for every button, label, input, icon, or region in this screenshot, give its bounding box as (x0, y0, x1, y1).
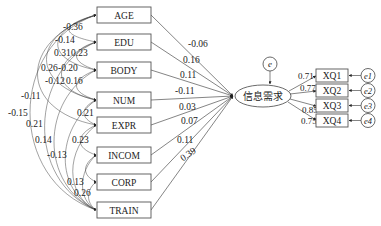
corr-label: -0.12 (45, 76, 65, 86)
predictor-num: NUM (97, 92, 151, 108)
predictor-expr: EXPR (97, 117, 151, 133)
predictor-label: INCOM (108, 151, 140, 161)
corr-label: 0.21 (26, 119, 43, 129)
predictor-age: AGE (97, 7, 151, 23)
coef-label: 0.11 (177, 135, 194, 145)
corr-label: -0.11 (21, 91, 41, 101)
predictor-boxes: AGE EDU BODY NUM EXPR INCOM CORP TRAIN (97, 7, 151, 218)
predictor-body: BODY (97, 62, 151, 78)
latent-label: 信息需求 (243, 90, 283, 102)
predictor-train: TRAIN (97, 202, 151, 218)
corr-label: -0.20 (58, 63, 78, 73)
coef-label: 0.07 (181, 116, 198, 126)
indicator-xq1: XQ1 (316, 69, 348, 82)
indicator-label: XQ3 (323, 101, 342, 111)
corr-label: 0.26 (74, 188, 91, 198)
coef-label: -0.06 (188, 39, 208, 49)
predictor-label: TRAIN (109, 206, 138, 216)
coef-label: 0.11 (180, 70, 197, 80)
corr-label: 0.16 (66, 76, 83, 86)
error-e3: e3 (361, 99, 375, 113)
corr-label: 0.23 (71, 48, 88, 58)
loading-label: 0.75 (301, 116, 317, 126)
coef-label: -0.11 (175, 86, 195, 96)
error-e2: e2 (361, 84, 375, 98)
loading-label: 0.77 (300, 83, 316, 93)
coef-label: 0.39 (178, 145, 198, 163)
corr-label: 0.14 (35, 135, 52, 145)
error-label: e2 (364, 86, 373, 96)
error-label: e (268, 59, 272, 69)
predictor-label: NUM (113, 96, 136, 106)
coef-label: 0.03 (179, 102, 196, 112)
predictor-label: BODY (111, 66, 138, 76)
latent-error: e (263, 57, 277, 84)
indicator-label: XQ4 (323, 116, 342, 126)
corr-label: -0.15 (8, 108, 28, 118)
corr-label: 0.13 (67, 177, 84, 187)
predictor-label: CORP (112, 178, 137, 188)
error-label: e4 (364, 116, 373, 126)
indicator-xq2: XQ2 (316, 84, 348, 97)
predictor-label: EXPR (112, 121, 137, 131)
predictor-label: AGE (114, 11, 134, 21)
corr-label: 0.23 (72, 135, 89, 145)
latent-variable: 信息需求 (235, 85, 291, 107)
predictor-corp: CORP (97, 174, 151, 190)
predictor-edu: EDU (97, 34, 151, 50)
corr-label: -0.13 (47, 150, 67, 160)
indicator-xq3: XQ3 (316, 99, 348, 112)
error-label: e1 (364, 71, 372, 81)
predictor-label: EDU (114, 38, 134, 48)
indicator-boxes: XQ1 XQ2 XQ3 XQ4 (316, 69, 348, 127)
error-e1: e1 (361, 69, 375, 83)
coef-labels: -0.06 0.16 0.11 -0.11 0.03 0.07 0.11 0.3… (175, 39, 208, 163)
loading-label: 0.71 (298, 71, 314, 81)
correlation-labels: -0.36 -0.14 0.31 0.23 0.26 -0.20 -0.12 0… (8, 22, 94, 198)
corr-label: 0.31 (54, 48, 71, 58)
corr-label: -0.14 (55, 35, 75, 45)
indicator-errors: e1 e2 e3 e4 (349, 69, 375, 128)
corr-label: 0.26 (41, 63, 58, 73)
indicator-label: XQ1 (323, 71, 342, 81)
indicator-label: XQ2 (323, 86, 342, 96)
corr-label: -0.36 (63, 22, 83, 32)
predictor-incom: INCOM (97, 147, 151, 163)
indicator-xq4: XQ4 (316, 114, 348, 127)
loading-labels: 0.71 0.77 0.85 0.75 (298, 71, 318, 126)
error-e4: e4 (361, 114, 375, 128)
sem-diagram: -0.36 -0.14 0.31 0.23 0.26 -0.20 -0.12 0… (0, 0, 381, 226)
coef-label: 0.16 (183, 55, 200, 65)
error-label: e3 (364, 101, 372, 111)
corr-label: 0.21 (77, 108, 94, 118)
